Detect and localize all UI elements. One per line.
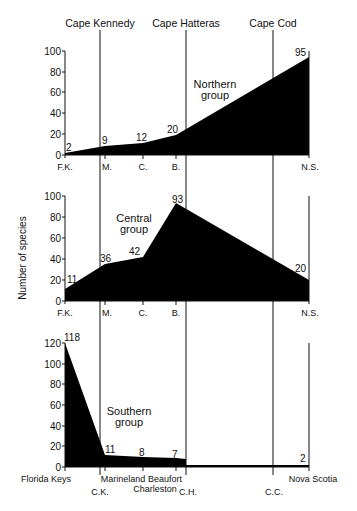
y-tick: 60	[50, 87, 62, 98]
y-tick: 20	[50, 129, 62, 140]
y-tick: 40	[50, 421, 62, 432]
y-tick: 0	[55, 462, 61, 473]
value-label: 20	[295, 263, 307, 274]
value-label: 9	[102, 135, 108, 146]
southern-panel: 0 20 40 60 80 100 120 118 11 8 7 2 Flori…	[21, 332, 337, 497]
y-tick: 80	[50, 379, 62, 390]
y-tick: 40	[50, 254, 62, 265]
value-label: 118	[64, 332, 80, 343]
station-label: C.	[139, 308, 148, 318]
station-name: Charleston	[133, 484, 177, 494]
landmark-abbr: C.K.	[91, 487, 109, 497]
station-label: F.K.	[57, 308, 73, 318]
group-label: group	[201, 89, 229, 101]
value-label: 95	[295, 47, 307, 58]
landmark-label: Cape Cod	[249, 17, 296, 29]
y-tick: 80	[50, 212, 62, 223]
station-label: N.S.	[301, 308, 319, 318]
group-label: group	[120, 223, 148, 235]
y-tick: 0	[55, 150, 61, 161]
value-label: 12	[136, 132, 148, 143]
station-label: N.S.	[301, 162, 319, 172]
value-label: 2	[300, 453, 306, 464]
station-name: Florida Keys	[21, 474, 72, 484]
y-tick: 60	[50, 400, 62, 411]
y-tick: 20	[50, 441, 62, 452]
station-name: Beaufort	[148, 474, 183, 484]
station-label: F.K.	[57, 162, 73, 172]
y-axis-label: Number of species	[17, 216, 28, 299]
y-tick: 0	[55, 296, 61, 307]
northern-panel: 0 20 40 60 80 100 2 9 12 20 95 F.K. M. C…	[44, 46, 318, 172]
value-label: 93	[172, 194, 184, 205]
value-label: 11	[67, 274, 78, 285]
y-tick: 100	[44, 359, 61, 370]
value-label: 11	[105, 444, 116, 455]
landmark-abbr: C.H.	[179, 487, 197, 497]
station-label: M.	[102, 308, 112, 318]
landmark-abbr: C.C.	[265, 487, 283, 497]
landmark-label: Cape Hatteras	[152, 17, 220, 29]
value-label: 8	[139, 447, 145, 458]
station-label: M.	[102, 162, 112, 172]
y-tick: 60	[50, 233, 62, 244]
value-label: 42	[129, 246, 141, 257]
value-label: 20	[167, 124, 179, 135]
station-label: B.	[172, 308, 181, 318]
value-label: 2	[66, 142, 72, 153]
value-label: 7	[172, 449, 178, 460]
group-label: group	[115, 416, 143, 428]
southern-area	[65, 343, 309, 467]
y-tick: 80	[50, 67, 62, 78]
station-name: Nova Scotia	[289, 474, 338, 484]
y-tick: 20	[50, 275, 62, 286]
station-label: B.	[172, 162, 181, 172]
y-tick: 100	[44, 46, 61, 57]
species-distribution-chart: Cape Kennedy Cape Hatteras Cape Cod 0 20…	[0, 0, 357, 511]
value-label: 36	[100, 253, 112, 264]
y-tick: 120	[44, 338, 61, 349]
y-tick: 40	[50, 108, 62, 119]
y-tick: 100	[44, 191, 61, 202]
station-name: Marineland	[101, 474, 146, 484]
station-label: C.	[139, 162, 148, 172]
central-area	[65, 203, 309, 301]
landmark-label: Cape Kennedy	[65, 17, 135, 29]
